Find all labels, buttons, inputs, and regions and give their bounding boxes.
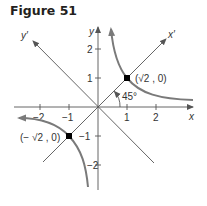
- y-tick-label: 2: [87, 44, 93, 55]
- y-axis-label: y: [88, 26, 95, 37]
- x-tick-label: −1: [62, 112, 74, 123]
- hyperbola-diagram: −2 −1 1 2 2 1 −1 −2 x y x′ y′ 45° (√2 , …: [0, 0, 207, 206]
- x-tick-label: 1: [124, 112, 130, 123]
- hyperbola-branch-lower: [19, 118, 88, 187]
- x-axis-label: x: [188, 111, 195, 122]
- vertex-right-label: (√2 , 0): [135, 73, 167, 84]
- y-tick-label: −2: [87, 160, 99, 171]
- x-prime-axis-label: x′: [167, 29, 176, 40]
- vertex-left-label: (− √2 , 0): [20, 132, 60, 143]
- y-tick-label: −1: [79, 131, 91, 142]
- y-prime-axis: [33, 41, 154, 163]
- y-prime-axis-label: y′: [20, 30, 29, 41]
- hyperbola-branch-upper: [111, 29, 193, 100]
- angle-label: 45°: [122, 91, 137, 102]
- y-tick-label: 1: [87, 73, 93, 84]
- vertex-point-right: [124, 75, 130, 81]
- angle-arc: [115, 92, 121, 108]
- x-tick-label: 2: [153, 112, 159, 123]
- x-prime-axis: [43, 39, 166, 162]
- vertex-point-left: [66, 133, 72, 139]
